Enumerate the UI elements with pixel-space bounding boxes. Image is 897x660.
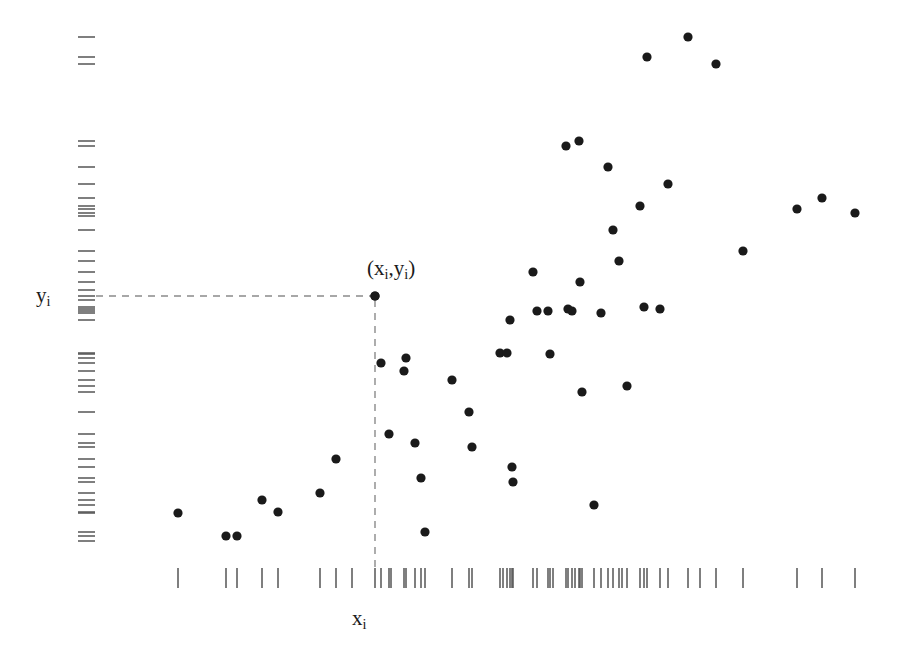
x-axis-label-base: x — [352, 606, 363, 630]
scatter-point — [416, 473, 425, 482]
scatter-point — [399, 366, 408, 375]
scatter-point — [596, 308, 605, 317]
plot-canvas — [0, 0, 897, 660]
scatter-point — [614, 256, 623, 265]
scatter-point — [173, 508, 182, 517]
scatter-point — [850, 208, 859, 217]
scatter-plot-figure: yi xi (xi,yi) — [0, 0, 897, 660]
x-axis-label: xi — [352, 608, 366, 629]
scatter-point — [655, 304, 664, 313]
scatter-point — [574, 136, 583, 145]
scatter-point — [711, 59, 720, 68]
scatter-point — [273, 507, 282, 516]
y-axis-label-base: y — [36, 283, 47, 307]
scatter-point — [232, 531, 241, 540]
scatter-point — [545, 349, 554, 358]
scatter-point — [315, 488, 324, 497]
scatter-point — [642, 52, 651, 61]
y-axis-label-subscript: i — [47, 293, 51, 309]
scatter-point — [447, 375, 456, 384]
x-axis-rug-marks — [178, 568, 855, 588]
scatter-point — [567, 306, 576, 315]
scatter-point — [543, 306, 552, 315]
annotation-y-base: y — [394, 256, 405, 280]
scatter-point — [376, 358, 385, 367]
scatter-point — [467, 442, 476, 451]
scatter-point — [792, 204, 801, 213]
scatter-point — [622, 381, 631, 390]
scatter-point — [507, 462, 516, 471]
scatter-point — [502, 348, 511, 357]
scatter-point — [532, 306, 541, 315]
scatter-point — [505, 315, 514, 324]
scatter-point — [603, 162, 612, 171]
highlighted-data-point — [370, 291, 379, 300]
scatter-point — [508, 477, 517, 486]
annotation-y-subscript: i — [404, 266, 408, 282]
scatter-point — [464, 407, 473, 416]
scatter-point — [384, 429, 393, 438]
scatter-point — [410, 438, 419, 447]
scatter-point — [561, 141, 570, 150]
scatter-point — [420, 527, 429, 536]
annotation-close-paren: ) — [408, 256, 415, 280]
scatter-point — [577, 387, 586, 396]
scatter-point — [608, 225, 617, 234]
annotation-open-paren: ( — [367, 256, 374, 280]
scatter-point — [738, 246, 747, 255]
y-axis-label: yi — [36, 285, 50, 306]
point-coordinate-annotation: (xi,yi) — [367, 258, 415, 279]
scatter-point — [683, 32, 692, 41]
scatter-point — [575, 277, 584, 286]
scatter-point — [817, 193, 826, 202]
scatter-point — [331, 454, 340, 463]
scatter-point — [401, 353, 410, 362]
y-axis-rug-marks — [78, 37, 95, 541]
scatter-points — [173, 32, 859, 540]
scatter-point — [639, 302, 648, 311]
scatter-point — [589, 500, 598, 509]
annotation-x-subscript: i — [385, 266, 389, 282]
scatter-point — [528, 267, 537, 276]
scatter-point — [663, 179, 672, 188]
x-axis-label-subscript: i — [363, 616, 367, 632]
scatter-point — [221, 531, 230, 540]
scatter-point — [635, 201, 644, 210]
scatter-point — [257, 495, 266, 504]
annotation-x-base: x — [374, 256, 385, 280]
